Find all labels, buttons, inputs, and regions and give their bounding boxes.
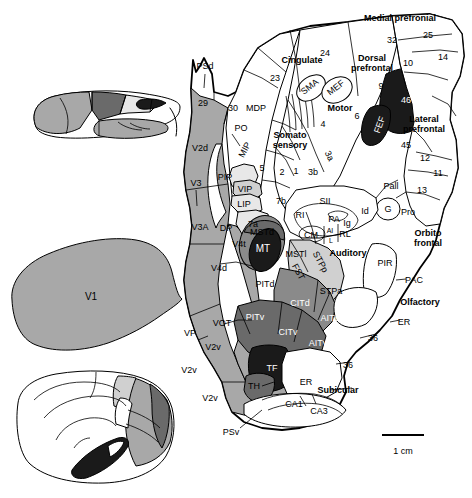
lateral-view-inset xyxy=(34,91,180,138)
region-v1 xyxy=(12,239,182,350)
scale-bar-label: 1 cm xyxy=(393,446,413,456)
scale-bar xyxy=(382,434,424,436)
region-pac-olfactory xyxy=(334,288,378,328)
cortical-flat-map: .o{fill:none;stroke:#000;stroke-width:1;… xyxy=(0,0,472,498)
region-g xyxy=(376,198,400,220)
medial-view-inset xyxy=(17,371,174,483)
